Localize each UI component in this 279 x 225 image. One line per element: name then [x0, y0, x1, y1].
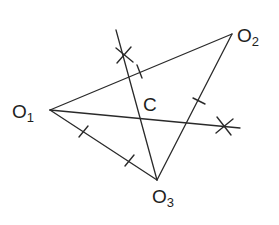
label-o1: O1 — [12, 101, 34, 125]
label-c: C — [143, 94, 157, 115]
side-o1-o2 — [50, 34, 232, 110]
triangle-diagram: O1 O2 O3 C — [0, 0, 279, 225]
tick-o1o3-a — [79, 126, 88, 137]
side-o2-o3 — [157, 34, 232, 180]
label-o3: O3 — [152, 186, 174, 210]
label-o2: O2 — [237, 25, 259, 49]
